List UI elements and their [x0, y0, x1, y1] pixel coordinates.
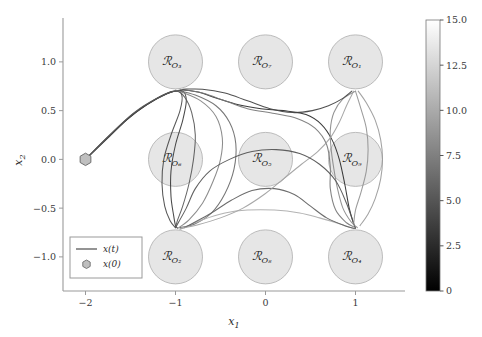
obstacle-o7: ℛO₇: [239, 35, 293, 89]
obstacle-o9: ℛO₉: [329, 132, 383, 186]
colorbar-tick-label: 2.5: [446, 240, 461, 251]
colorbar-gradient: [426, 20, 440, 291]
legend-hexagon-swatch: [83, 260, 90, 269]
obstacle-o3: ℛO₃: [149, 35, 203, 89]
x-tick-label: −2: [78, 297, 92, 308]
start-point-layer: [80, 153, 91, 165]
figure-container: ℛO₃ℛO₇ℛO₁ℛO₆ℛO₅ℛO₉ℛO₂ℛO₈ℛO₄ −2−101 −1.0−…: [0, 0, 482, 337]
colorbar-tick-label: 0: [446, 285, 452, 296]
y-tick-label: −1.0: [33, 251, 56, 262]
legend-marker-label: x(0): [103, 259, 121, 269]
obstacle-o2: ℛO₂: [149, 230, 203, 284]
obstacles-layer: ℛO₃ℛO₇ℛO₁ℛO₆ℛO₅ℛO₉ℛO₂ℛO₈ℛO₄: [149, 35, 383, 284]
y-tick-label: 0.0: [41, 154, 56, 165]
obstacle-o4: ℛO₄: [329, 230, 383, 284]
colorbar-tick-label: 5.0: [446, 195, 461, 206]
legend-line-label: x(t): [103, 244, 119, 254]
y-tick-label: −0.5: [33, 203, 56, 214]
legend: x(t) x(0): [70, 237, 142, 278]
colorbar-tick-label: 12.5: [446, 60, 467, 71]
obstacle-o1: ℛO₁: [329, 35, 383, 89]
start-point-marker: [80, 153, 91, 165]
colorbar-tick-label: 10.0: [446, 105, 467, 116]
x-tick-label: 0: [262, 297, 268, 308]
x-tick-label: −1: [168, 297, 182, 308]
obstacle-o6: ℛO₆: [149, 132, 203, 186]
colorbar-tick-label: 15.0: [446, 14, 467, 25]
colorbar-tick-label: 7.5: [446, 150, 461, 161]
x-tick-label: 1: [352, 297, 358, 308]
y-tick-label: 1.0: [41, 56, 56, 67]
plot-canvas: ℛO₃ℛO₇ℛO₁ℛO₆ℛO₅ℛO₉ℛO₂ℛO₈ℛO₄ −2−101 −1.0−…: [0, 0, 482, 337]
obstacle-o8: ℛO₈: [239, 230, 293, 284]
y-tick-label: 0.5: [41, 105, 56, 116]
